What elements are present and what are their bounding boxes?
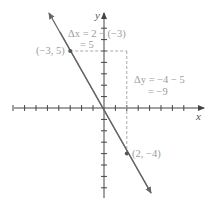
delta-y-label-1: Δy = −4 − 5 bbox=[134, 74, 185, 85]
y-axis-label: y bbox=[95, 9, 100, 21]
point-2-neg4 bbox=[125, 152, 129, 156]
point-label-neg3-5: (−3, 5) bbox=[36, 45, 65, 56]
delta-x-label-2: = 5 bbox=[80, 39, 94, 50]
point-label-2-neg4: (2, −4) bbox=[132, 148, 161, 159]
point-neg3-5 bbox=[68, 49, 72, 53]
coordinate-plane: y x (−3, 5) (2, −4) Δx = 2 − (−3) = 5 Δy… bbox=[0, 0, 218, 212]
delta-x-label-1: Δx = 2 − (−3) bbox=[68, 28, 126, 39]
delta-y-label-2: = −9 bbox=[148, 86, 168, 97]
x-axis bbox=[13, 105, 204, 111]
x-axis-label: x bbox=[196, 110, 201, 122]
